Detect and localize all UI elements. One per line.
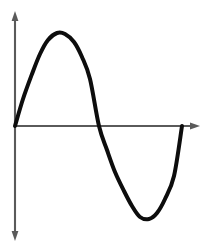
- sine-wave-figure: [0, 0, 211, 250]
- figure-canvas: [0, 0, 211, 250]
